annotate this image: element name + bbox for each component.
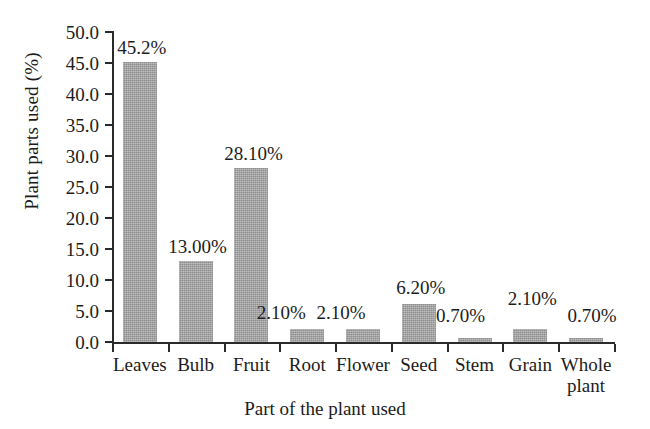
x-axis-tick bbox=[558, 344, 560, 352]
x-axis-title: Part of the plant used bbox=[0, 398, 650, 420]
x-axis-line bbox=[112, 342, 615, 344]
y-axis-tick bbox=[105, 93, 112, 95]
x-axis-tick bbox=[168, 344, 170, 352]
bar-data-label: 0.70% bbox=[547, 306, 637, 325]
y-axis-tick-label: 25.0 bbox=[43, 178, 99, 197]
y-axis-tick bbox=[105, 155, 112, 157]
x-axis-tick bbox=[391, 344, 393, 352]
x-axis-tick bbox=[279, 344, 281, 352]
bar[interactable] bbox=[290, 329, 324, 342]
y-axis-title: Plant parts used (%) bbox=[21, 11, 43, 251]
bar-data-label: 28.10% bbox=[208, 144, 298, 163]
x-axis-category-label: Whole plant bbox=[550, 354, 622, 396]
y-axis-tick bbox=[105, 62, 112, 64]
bar-data-label: 13.00% bbox=[153, 237, 243, 256]
y-axis-tick-label: 5.0 bbox=[43, 302, 99, 321]
y-axis-tick-label: 30.0 bbox=[43, 147, 99, 166]
bar[interactable] bbox=[346, 329, 380, 342]
bar-data-label: 0.70% bbox=[416, 306, 506, 325]
x-axis-tick bbox=[447, 344, 449, 352]
y-axis-tick bbox=[105, 124, 112, 126]
bar[interactable] bbox=[458, 338, 492, 342]
y-axis-tick-label: 35.0 bbox=[43, 116, 99, 135]
y-axis-tick-label: 20.0 bbox=[43, 209, 99, 228]
y-axis-tick-label: 15.0 bbox=[43, 240, 99, 259]
y-axis-tick-label: 40.0 bbox=[43, 85, 99, 104]
bar-data-label: 45.2% bbox=[97, 38, 187, 57]
bar[interactable] bbox=[569, 338, 603, 342]
x-axis-tick bbox=[502, 344, 504, 352]
y-axis-tick bbox=[105, 341, 112, 343]
y-axis-tick bbox=[105, 248, 112, 250]
y-axis-tick-label: 50.0 bbox=[43, 23, 99, 42]
x-axis-tick bbox=[224, 344, 226, 352]
bar-data-label: 6.20% bbox=[376, 278, 466, 297]
y-axis-tick-label: 10.0 bbox=[43, 271, 99, 290]
y-axis-tick bbox=[105, 31, 112, 33]
bar-chart: Plant parts used (%) 50.045.040.035.030.… bbox=[0, 0, 650, 429]
y-axis-tick bbox=[105, 186, 112, 188]
x-axis-tick bbox=[614, 344, 616, 352]
x-axis-tick bbox=[335, 344, 337, 352]
x-axis-tick bbox=[112, 344, 114, 352]
bar-data-label: 2.10% bbox=[296, 303, 386, 322]
bar[interactable] bbox=[513, 329, 547, 342]
y-axis-tick bbox=[105, 279, 112, 281]
bar[interactable] bbox=[179, 261, 213, 342]
y-axis-tick-label: 45.0 bbox=[43, 54, 99, 73]
bar[interactable] bbox=[123, 62, 157, 342]
y-axis-tick bbox=[105, 310, 112, 312]
y-axis-tick-label: 0.0 bbox=[43, 333, 99, 352]
y-axis-tick bbox=[105, 217, 112, 219]
